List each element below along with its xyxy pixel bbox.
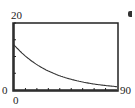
plot-frame [13, 23, 118, 91]
plot-area [0, 0, 135, 108]
decay-curve [14, 45, 117, 87]
partial-letter [128, 11, 132, 17]
